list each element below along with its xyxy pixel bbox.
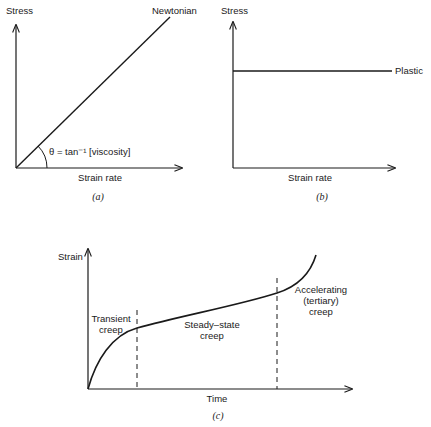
panel-c-caption: (c) [212,410,223,421]
theta-viscosity-label: θ = tan⁻¹ [viscosity] [49,146,130,157]
panel-c-y-axis-label: Strain [58,251,83,262]
panel-c-x-axis-label: Time [207,393,228,404]
panel-a-caption: (a) [92,191,104,202]
panel-a-y-axis-label: Stress [6,5,33,16]
panel-b-caption: (b) [316,191,328,202]
panel-a-x-axis-label: Strain rate [78,172,122,183]
steady-state-creep-label: Steady–state creep [184,319,239,341]
theta-arc [38,146,47,168]
newtonian-label: Newtonian [152,5,197,16]
transient-creep-label: Transient creep [91,313,130,335]
plastic-label: Plastic [395,65,423,76]
panel-b-y-axis-label: Stress [221,5,248,16]
diagram-canvas [0,0,431,427]
panel-b-x-axis-label: Strain rate [288,172,332,183]
panel-b-axes [233,22,395,168]
accelerating-creep-label: Accelerating (tertiary) creep [295,284,347,317]
